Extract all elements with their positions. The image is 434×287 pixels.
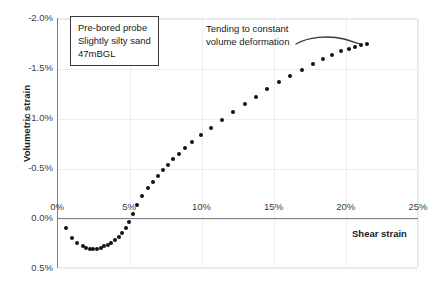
x-axis-title: Shear strain [352,228,407,239]
x-axis-tick-label: 20% [336,202,355,212]
x-axis-tick-label: 25% [408,202,427,212]
volumetric-strain-chart: -2.0%-1.5%-1.0%-0.5%0.0%0.5% 0%5%10%15%2… [0,0,434,287]
y-axis-title: Volumetric strain [21,69,32,179]
x-axis-tick-label: 0% [50,202,64,212]
callout-line-2: volume deformation [206,35,289,48]
callout-line-1: Tending to constant [206,22,289,35]
x-axis-tick-label: 15% [264,202,283,212]
info-box-line-3: 47mBGL [78,47,151,60]
test-info-box: Pre-bored probe Slightly silty sand 47mB… [70,16,159,66]
info-box-line-1: Pre-bored probe [78,21,151,34]
x-axis-tick-label: 5% [122,202,136,212]
info-box-line-2: Slightly silty sand [78,34,151,47]
constant-volume-annotation: Tending to constant volume deformation [206,22,289,48]
x-axis-tick-label: 10% [192,202,211,212]
